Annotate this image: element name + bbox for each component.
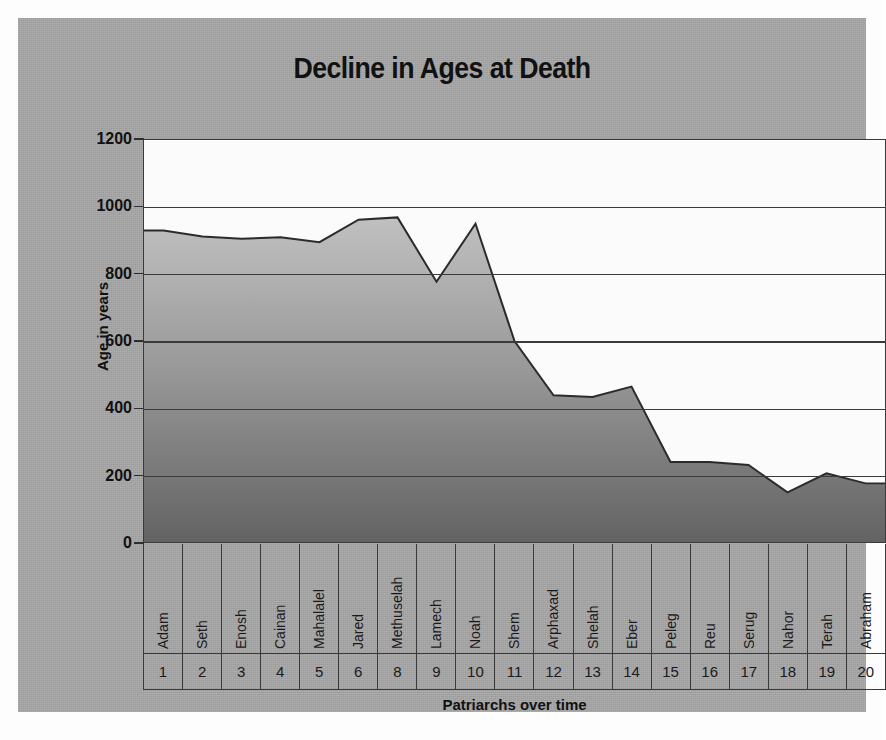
category-label-cell: Jared — [339, 544, 378, 653]
category-label-cell: Noah — [456, 544, 495, 653]
chart-title: Decline in Ages at Death — [52, 52, 832, 85]
plot-area — [143, 139, 886, 543]
category-number: 17 — [730, 654, 769, 689]
gridline — [144, 341, 885, 343]
category-label: Serug — [741, 612, 757, 649]
gridline — [144, 476, 885, 478]
category-label: Cainan — [272, 605, 288, 649]
y-axis-tick-label: 1000 — [48, 197, 132, 215]
category-label: Abraham — [858, 592, 874, 649]
category-label-cell: Abraham — [847, 544, 885, 653]
y-axis-tick-label: 1200 — [48, 130, 132, 148]
gridline — [144, 274, 885, 276]
gridline — [144, 409, 885, 411]
category-label: Lamech — [428, 599, 444, 649]
category-label: Eber — [624, 619, 640, 649]
y-axis-tick-label: 0 — [48, 534, 132, 552]
category-label: Peleg — [663, 613, 679, 649]
y-axis-tick-label: 800 — [48, 265, 132, 283]
category-label-cell: Arphaxad — [534, 544, 573, 653]
category-label: Reu — [702, 623, 718, 649]
category-label-cell: Terah — [808, 544, 847, 653]
category-number: 9 — [417, 654, 456, 689]
area-fill — [144, 217, 885, 542]
category-label-cell: Enosh — [222, 544, 261, 653]
category-number-band: 123456891011121314151617181920 — [143, 654, 886, 690]
category-label: Terah — [819, 614, 835, 649]
y-axis-tick-label: 200 — [48, 467, 132, 485]
category-label: Arphaxad — [545, 589, 561, 649]
category-label-cell: Cainan — [261, 544, 300, 653]
category-label-cell: Reu — [691, 544, 730, 653]
category-number: 14 — [613, 654, 652, 689]
category-number: 5 — [300, 654, 339, 689]
category-label: Methuselah — [389, 577, 405, 649]
y-axis-tick-labels: 120010008006004002000 — [46, 139, 132, 543]
category-number: 20 — [847, 654, 885, 689]
category-label: Jared — [350, 614, 366, 649]
category-label: Shem — [506, 612, 522, 649]
category-label: Mahalalel — [311, 589, 327, 649]
category-label: Nahor — [780, 611, 796, 649]
category-number: 12 — [534, 654, 573, 689]
category-label-cell: Seth — [183, 544, 222, 653]
category-label: Seth — [194, 620, 210, 649]
category-label-band: AdamSethEnoshCainanMahalalelJaredMethuse… — [143, 544, 886, 654]
category-number: 6 — [339, 654, 378, 689]
category-label: Adam — [155, 612, 171, 649]
category-number: 15 — [652, 654, 691, 689]
category-label-cell: Peleg — [652, 544, 691, 653]
category-label-cell: Eber — [613, 544, 652, 653]
category-label-cell: Lamech — [417, 544, 456, 653]
y-axis-tick-label: 400 — [48, 399, 132, 417]
category-label-cell: Shem — [495, 544, 534, 653]
category-number: 11 — [495, 654, 534, 689]
gridline — [144, 207, 885, 209]
category-number: 4 — [261, 654, 300, 689]
category-label-cell: Nahor — [769, 544, 808, 653]
category-label-cell: Shelah — [574, 544, 613, 653]
y-axis-tick-label: 600 — [48, 332, 132, 350]
category-label-cell: Mahalalel — [300, 544, 339, 653]
category-label: Noah — [467, 616, 483, 649]
category-label: Shelah — [585, 605, 601, 649]
category-number: 16 — [691, 654, 730, 689]
category-number: 8 — [378, 654, 417, 689]
category-number: 19 — [808, 654, 847, 689]
category-number: 13 — [574, 654, 613, 689]
category-number: 1 — [144, 654, 183, 689]
x-axis-title: Patriarchs over time — [143, 696, 886, 713]
category-number: 2 — [183, 654, 222, 689]
category-number: 10 — [456, 654, 495, 689]
category-label-cell: Serug — [730, 544, 769, 653]
category-number: 3 — [222, 654, 261, 689]
category-label: Enosh — [233, 609, 249, 649]
category-number: 18 — [769, 654, 808, 689]
category-label-cell: Methuselah — [378, 544, 417, 653]
chart-plate: Decline in Ages at Death Age in years 12… — [18, 18, 866, 712]
category-label-cell: Adam — [144, 544, 183, 653]
